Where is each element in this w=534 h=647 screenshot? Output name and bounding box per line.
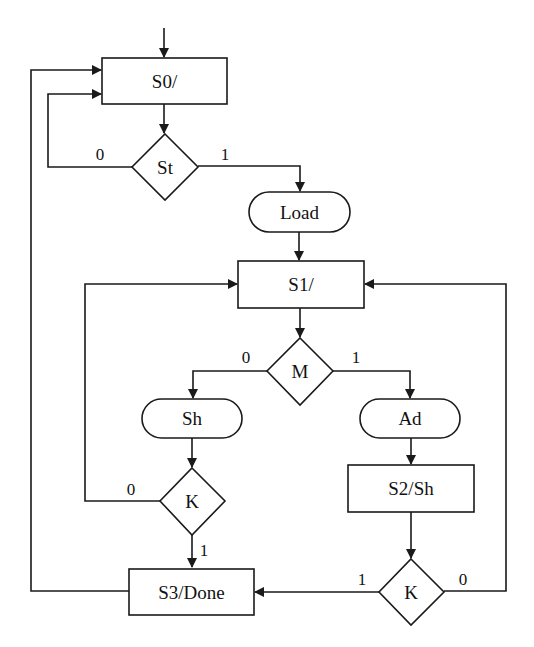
state-s1: S1/ <box>238 261 364 308</box>
output-load-label: Load <box>280 202 320 223</box>
decision-st-label: St <box>157 157 174 178</box>
edge-st-0-s0: 0 <box>48 94 132 167</box>
output-sh: Sh <box>142 399 242 438</box>
state-s3-label: S3/Done <box>158 582 225 603</box>
edge-st-1-load: 1 <box>198 145 300 191</box>
decision-m: M <box>267 338 333 405</box>
state-s2: S2/Sh <box>348 465 474 512</box>
decision-m-label: M <box>292 361 309 382</box>
edge-label-st-0: 0 <box>96 145 105 164</box>
edge-label-k2-1: 1 <box>358 570 367 589</box>
asm-chart: S0/ St 0 1 Load S1/ M 0 1 <box>0 0 534 647</box>
state-s3: S3/Done <box>129 569 254 615</box>
edge-label-k1-0: 0 <box>127 480 136 499</box>
edge-k1-0-s1: 0 <box>85 284 237 501</box>
edge-label-k2-0: 0 <box>459 570 468 589</box>
state-s1-label: S1/ <box>288 274 314 295</box>
edge-k1-1-s3: 1 <box>192 535 208 567</box>
decision-k-right-label: K <box>404 582 418 603</box>
output-ad-label: Ad <box>398 408 422 429</box>
decision-k-left-label: K <box>185 491 199 512</box>
edge-m-1-ad: 1 <box>333 348 410 398</box>
output-ad: Ad <box>360 399 460 438</box>
edge-s3-s0 <box>31 70 129 591</box>
decision-k-left: K <box>160 468 225 535</box>
decision-st: St <box>132 134 198 200</box>
edge-label-k1-1: 1 <box>200 541 209 560</box>
output-load: Load <box>249 192 350 232</box>
state-s0-label: S0/ <box>152 71 178 92</box>
edge-label-m-1: 1 <box>352 348 361 367</box>
edge-m-0-sh: 0 <box>193 348 267 398</box>
edge-label-m-0: 0 <box>242 348 251 367</box>
edge-k2-1-s3: 1 <box>255 570 379 592</box>
output-sh-label: Sh <box>182 408 203 429</box>
decision-k-right: K <box>379 559 444 625</box>
edge-label-st-1: 1 <box>221 145 230 164</box>
state-s0: S0/ <box>102 58 227 104</box>
state-s2-label: S2/Sh <box>388 478 434 499</box>
